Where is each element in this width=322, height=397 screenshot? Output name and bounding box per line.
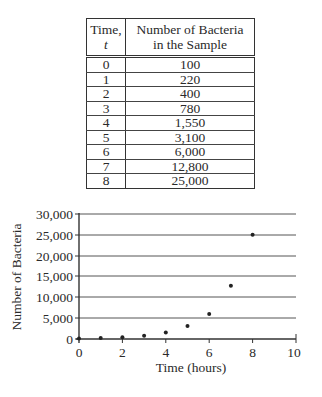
x-tick-label: 8 — [249, 345, 256, 360]
y-tick-label: 5,000 — [43, 311, 74, 326]
data-point — [251, 233, 255, 237]
x-tick-label: 4 — [162, 345, 169, 360]
gridlines — [79, 214, 296, 318]
y-axis-label: Number of Bacteria — [9, 223, 24, 330]
y-tick-label: 15,000 — [36, 269, 73, 284]
x-axis-label: Time (hours) — [156, 360, 226, 375]
x-tick-label: 2 — [119, 345, 126, 360]
y-tick-label: 20,000 — [36, 249, 73, 264]
scatter-chart: 30,000 25,000 20,000 15,000 10,000 5,000… — [0, 0, 322, 397]
y-tick-labels: 30,000 25,000 20,000 15,000 10,000 5,000… — [36, 207, 73, 347]
data-point — [142, 334, 146, 338]
x-tick-label: 0 — [76, 345, 83, 360]
data-point — [99, 336, 103, 340]
y-tick-label: 30,000 — [36, 207, 73, 222]
x-tick-label: 6 — [206, 345, 213, 360]
data-point — [186, 324, 190, 328]
data-point — [207, 312, 211, 316]
data-point — [164, 331, 168, 335]
data-point — [229, 284, 233, 288]
data-points — [77, 233, 255, 341]
data-point — [77, 337, 81, 341]
y-tick-label: 0 — [66, 332, 73, 347]
y-tick-label: 25,000 — [36, 228, 73, 243]
x-tick-labels: 0 2 4 6 8 10 — [76, 345, 301, 360]
x-tick-label: 10 — [287, 345, 301, 360]
y-tick-label: 10,000 — [36, 290, 73, 305]
data-point — [120, 335, 124, 339]
